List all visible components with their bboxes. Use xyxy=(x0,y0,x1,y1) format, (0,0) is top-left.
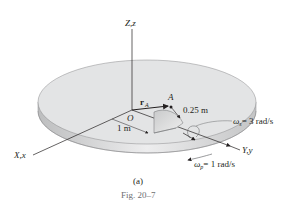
diagram-canvas: Z,z X,x Y,y r A A 0.25 m O 1 m ωs= 3 rad… xyxy=(0,0,293,210)
precession-velocity-label: ωp= 1 rad/s xyxy=(194,159,235,170)
spin-value: = 3 rad/s xyxy=(242,116,274,126)
x-axis-label: X,x xyxy=(13,150,26,160)
origin-label: O xyxy=(127,113,134,123)
spin-velocity-label: ωs= 3 rad/s xyxy=(233,116,274,127)
figure-sublabel: (a) xyxy=(133,176,143,186)
position-vector-subscript: A xyxy=(144,102,149,108)
position-vector-label: r xyxy=(140,97,144,107)
point-a-label: A xyxy=(167,92,174,102)
y-axis-label: Y,y xyxy=(242,145,252,155)
precession-value: = 1 rad/s xyxy=(203,159,235,169)
offset-label: 1 m xyxy=(117,123,131,133)
radius-label: 0.25 m xyxy=(183,105,208,115)
figure-caption: Fig. 20–7 xyxy=(121,190,156,200)
z-axis-label: Z,z xyxy=(125,18,136,28)
